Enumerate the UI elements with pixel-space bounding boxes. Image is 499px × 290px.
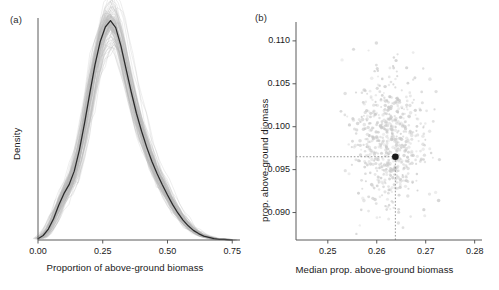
panel-b-x-tick-label: 0.28: [455, 246, 495, 256]
bootstrap-scatter-cloud: [340, 41, 442, 235]
panel-a-x-tick-label: 0.75: [212, 246, 252, 256]
panel-b-y-tick-label: 0.090: [252, 207, 290, 217]
panel-a-x-axis-title: Proportion of above-ground biomass: [0, 262, 250, 273]
highlighted-estimate-point[interactable]: [392, 153, 399, 160]
panel-a-x-tick-label: 0.50: [147, 246, 187, 256]
bootstrap-envelope: [33, 0, 239, 240]
panel-b-scatter-plot: (b) 0.250.260.270.280.0900.0950.1000.105…: [250, 0, 499, 290]
panel-b-y-axis-title: prop. above-ground diomass: [259, 99, 270, 222]
panel-b-y-tick-label: 0.100: [252, 121, 290, 131]
panel-a-x-tick-label: 0.00: [18, 246, 58, 256]
panel-b-y-tick-label: 0.110: [252, 35, 290, 45]
panel-b-x-axis-title: Median prop. above-ground biomass: [250, 264, 499, 275]
panel-b-y-tick-label: 0.095: [252, 164, 290, 174]
figure-container: (a) Proportion of above-ground biomass D…: [0, 0, 499, 290]
panel-a-density-plot: (a) Proportion of above-ground biomass D…: [0, 0, 250, 290]
panel-b-x-tick-label: 0.26: [357, 246, 397, 256]
panel-b-x-tick-label: 0.25: [308, 246, 348, 256]
panel-a-x-tick-label: 0.25: [83, 246, 123, 256]
panel-b-y-tick-label: 0.105: [252, 78, 290, 88]
panel-a-y-axis-title: Density: [11, 128, 22, 160]
panel-b-x-tick-label: 0.27: [406, 246, 446, 256]
